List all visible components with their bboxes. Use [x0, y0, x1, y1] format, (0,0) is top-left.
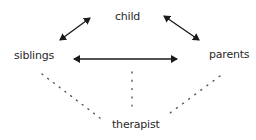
family-therapy-diagram: child siblings parents therapist: [0, 0, 256, 140]
edge-siblings-therapist-dotted: [42, 74, 100, 118]
edge-siblings-child-arrow: [60, 18, 90, 40]
edge-child-parents-arrow: [164, 16, 199, 40]
node-siblings-label: siblings: [14, 50, 54, 62]
node-child-label: child: [115, 11, 140, 23]
node-therapist-label: therapist: [112, 119, 160, 131]
edge-parents-therapist-dotted: [170, 76, 220, 113]
node-parents-label: parents: [209, 49, 249, 61]
